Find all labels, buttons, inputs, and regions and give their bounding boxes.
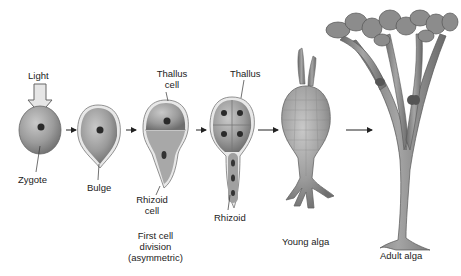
thallus-cell-label-text: Thallus cell xyxy=(156,68,188,90)
caption-line-1: First cell xyxy=(128,230,183,241)
rhizoid-label: Rhizoid xyxy=(214,212,246,223)
caption-line-2: division xyxy=(128,241,183,252)
bulge-label: Bulge xyxy=(87,182,111,193)
caption-line-3: (asymmetric) xyxy=(128,252,183,263)
bulge-cell xyxy=(78,105,121,180)
first-division-caption: First cell division (asymmetric) xyxy=(128,230,183,263)
thallus-label: Thallus xyxy=(230,68,261,79)
young-alga xyxy=(282,48,334,208)
diagram-canvas xyxy=(0,0,461,276)
zygote-cell xyxy=(19,106,61,172)
light-label: Light xyxy=(28,70,49,81)
first-division-cell xyxy=(143,92,188,195)
rhizoid-cell-label-text: Rhizoid cell xyxy=(132,194,172,216)
four-cell-stage xyxy=(210,80,254,210)
thallus-cell-label: Thallus cell xyxy=(156,68,188,90)
adult-alga xyxy=(326,10,458,250)
adult-alga-label: Adult alga xyxy=(380,250,422,261)
young-alga-label: Young alga xyxy=(282,236,329,247)
rhizoid-cell-label: Rhizoid cell xyxy=(132,194,172,216)
zygote-label: Zygote xyxy=(18,174,47,185)
